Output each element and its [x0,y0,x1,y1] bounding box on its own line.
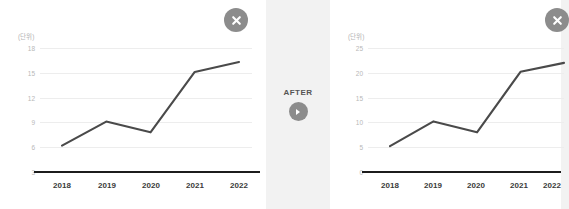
data-line-after [368,48,564,172]
arrow-right-glyph [293,107,303,117]
x-tick-label: 2020 [467,181,485,190]
x-tick-label: 2018 [381,181,399,190]
y-tick-label: 25 [356,45,363,52]
x-axis-after [362,171,561,173]
x-tick-label: 2022 [543,181,561,190]
y-tick-label: 15 [356,94,363,101]
close-button-after[interactable] [545,8,569,32]
close-icon [231,15,242,26]
close-button-before[interactable] [224,8,248,32]
after-label: AFTER [283,88,312,97]
plot-area-after: 25 20 15 10 5 0 [368,48,564,172]
close-icon [552,15,563,26]
y-tick-label: 20 [356,69,363,76]
x-tick-label: 2019 [424,181,442,190]
after-indicator: AFTER [266,88,330,121]
circle-arrow-right-icon [289,102,308,121]
x-tick-label: 2021 [510,181,528,190]
y-tick-label: 5 [359,144,363,151]
y-tick-label: 10 [356,119,363,126]
unit-label-after: (단위) [348,31,364,41]
